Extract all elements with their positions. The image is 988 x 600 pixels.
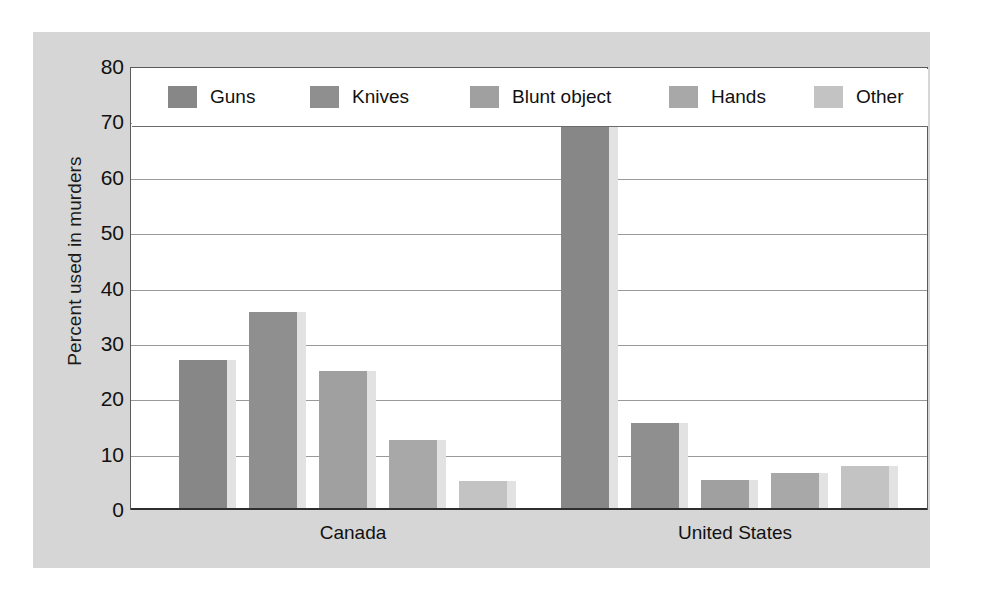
gridline xyxy=(131,290,927,291)
legend-item[interactable]: Guns xyxy=(168,86,255,108)
bar-shadow xyxy=(679,423,688,509)
bar xyxy=(319,371,367,509)
bar xyxy=(841,466,889,509)
legend-item[interactable]: Knives xyxy=(310,86,409,108)
bar-shadow xyxy=(227,360,236,510)
legend-swatch xyxy=(310,86,339,108)
bar xyxy=(179,360,227,510)
legend-swatch xyxy=(669,86,698,108)
bar-shadow xyxy=(609,121,618,509)
y-tick-label: 70 xyxy=(64,110,124,134)
legend-label: Hands xyxy=(711,86,766,108)
bar-shadow xyxy=(819,473,828,509)
legend-label: Guns xyxy=(210,86,255,108)
bar-body xyxy=(771,473,819,509)
x-axis-line xyxy=(131,508,927,510)
chart-panel: Percent used in murders 8070605040302010… xyxy=(33,32,930,568)
y-tick-label: 30 xyxy=(64,332,124,356)
bar-shadow xyxy=(889,466,898,509)
bar-body xyxy=(249,312,297,509)
bar-shadow xyxy=(367,371,376,509)
y-tick-label: 50 xyxy=(64,221,124,245)
legend-item[interactable]: Other xyxy=(814,86,904,108)
y-tick-label: 40 xyxy=(64,277,124,301)
y-tick-label: 60 xyxy=(64,166,124,190)
x-tick-label: Canada xyxy=(253,522,453,544)
bar xyxy=(389,440,437,509)
gridline xyxy=(131,234,927,235)
bar xyxy=(631,423,679,509)
gridline xyxy=(131,179,927,180)
legend-label: Blunt object xyxy=(512,86,611,108)
legend-swatch xyxy=(470,86,499,108)
figure: Percent used in murders 8070605040302010… xyxy=(0,0,988,600)
legend-item[interactable]: Hands xyxy=(669,86,766,108)
y-tick-label: 10 xyxy=(64,443,124,467)
plot-area: GunsKnivesBlunt objectHandsOther xyxy=(130,67,928,510)
legend-label: Knives xyxy=(352,86,409,108)
bar xyxy=(459,481,507,509)
legend-swatch xyxy=(814,86,843,108)
x-tick-label: United States xyxy=(635,522,835,544)
bar xyxy=(701,480,749,509)
bar-body xyxy=(389,440,437,509)
bar xyxy=(771,473,819,509)
bar-shadow xyxy=(507,481,516,509)
bar-body xyxy=(319,371,367,509)
y-tick-label: 0 xyxy=(64,498,124,522)
legend-item[interactable]: Blunt object xyxy=(470,86,611,108)
y-axis-tick-labels: 80706050403020100 xyxy=(60,67,124,510)
bar-body xyxy=(631,423,679,509)
bar-body xyxy=(701,480,749,509)
legend-swatch xyxy=(168,86,197,108)
bar-body xyxy=(561,121,609,509)
bar-shadow xyxy=(297,312,306,509)
y-tick-label: 80 xyxy=(64,55,124,79)
legend-label: Other xyxy=(856,86,904,108)
bar xyxy=(249,312,297,509)
bar-body xyxy=(459,481,507,509)
bar-shadow xyxy=(437,440,446,509)
chart-legend: GunsKnivesBlunt objectHandsOther xyxy=(132,69,928,127)
bar xyxy=(561,121,609,509)
bar-body xyxy=(179,360,227,510)
bar-body xyxy=(841,466,889,509)
y-tick-label: 20 xyxy=(64,387,124,411)
bar-shadow xyxy=(749,480,758,509)
